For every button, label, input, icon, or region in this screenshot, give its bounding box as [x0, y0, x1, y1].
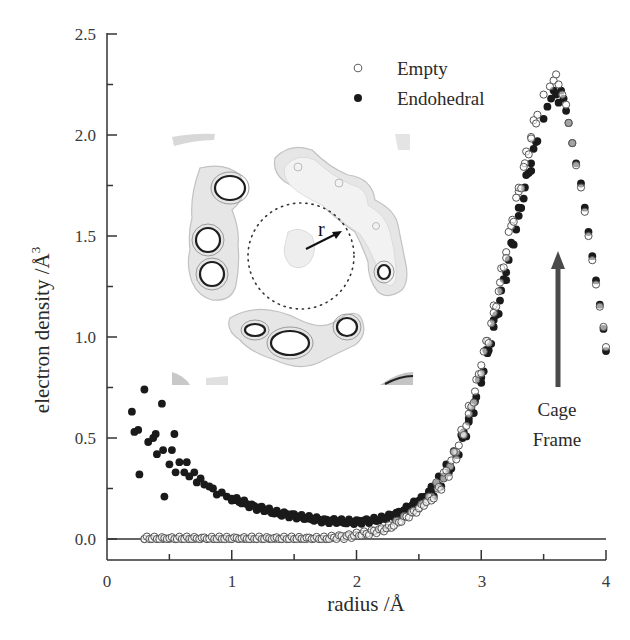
data-point-empty	[445, 473, 452, 480]
y-tick-1-5: 1.5	[75, 227, 96, 246]
x-axis-title: radius /Å	[327, 592, 405, 616]
data-point-endohedral	[190, 468, 198, 476]
data-point-empty	[518, 185, 525, 192]
data-point-empty	[533, 120, 540, 127]
data-point-endohedral	[527, 167, 535, 175]
data-point-endohedral	[134, 426, 142, 434]
data-point-empty	[581, 208, 588, 215]
data-point-empty	[573, 162, 580, 169]
data-point-empty	[513, 194, 520, 201]
data-point-empty	[525, 151, 532, 158]
data-point-endohedral	[517, 204, 525, 212]
x-ticks	[169, 550, 606, 560]
x-tick-4: 4	[602, 572, 611, 591]
data-point-empty	[520, 163, 527, 170]
y-tick-2-0: 2.0	[75, 126, 96, 145]
electron-density-chart: 2.5 2.0 1.5 1.0 0.5 0.0 0 1 2 3 4 radius…	[0, 0, 630, 640]
data-point-empty	[480, 348, 487, 355]
data-point-empty	[455, 442, 462, 449]
arrow-up-icon	[551, 251, 565, 269]
data-point-empty	[596, 303, 603, 310]
x-tick-1: 1	[228, 572, 237, 591]
y-tick-2-5: 2.5	[75, 25, 96, 44]
legend-label-endohedral: Endohedral	[397, 88, 485, 109]
data-point-empty	[470, 399, 477, 406]
arrow-shaft	[556, 266, 561, 387]
data-point-empty	[478, 370, 485, 377]
data-point-endohedral	[166, 460, 174, 468]
y-ticks	[107, 34, 117, 539]
svg-text:electron density /Å3: electron density /Å3	[28, 247, 54, 413]
data-point-endohedral	[141, 386, 149, 394]
data-point-empty	[602, 344, 609, 351]
data-point-empty	[510, 218, 517, 225]
data-point-endohedral	[176, 458, 184, 466]
axes	[107, 33, 606, 560]
data-point-endohedral	[171, 430, 179, 438]
data-point-endohedral	[159, 446, 167, 454]
y-axis-title-superscript: 3	[28, 247, 43, 254]
data-point-empty	[577, 184, 584, 191]
data-point-endohedral	[136, 471, 144, 479]
data-point-endohedral	[158, 400, 166, 408]
data-point-empty	[453, 456, 460, 463]
data-point-empty	[485, 340, 492, 347]
data-point-empty	[465, 410, 472, 417]
data-point-empty	[565, 119, 572, 126]
data-point-endohedral	[510, 241, 518, 249]
data-point-empty	[553, 71, 560, 78]
y-tick-1-0: 1.0	[75, 328, 96, 347]
data-point-empty	[460, 431, 467, 438]
series-endohedral	[128, 87, 610, 528]
data-point-empty	[555, 81, 562, 88]
data-point-endohedral	[183, 458, 191, 466]
data-point-empty	[503, 254, 510, 261]
inset-radius-label: r	[318, 218, 325, 240]
data-point-empty	[471, 388, 478, 395]
data-point-empty	[493, 303, 500, 310]
data-point-empty	[496, 279, 503, 286]
data-point-empty	[463, 422, 470, 429]
data-point-endohedral	[161, 493, 169, 501]
data-point-empty	[528, 135, 535, 142]
data-point-empty	[488, 320, 495, 327]
data-point-endohedral	[152, 430, 160, 438]
data-point-empty	[592, 281, 599, 288]
x-tick-3: 3	[478, 572, 487, 591]
data-point-endohedral	[168, 446, 176, 454]
data-point-endohedral	[544, 103, 552, 111]
y-axis-title: electron density /Å	[30, 253, 54, 414]
data-point-empty	[559, 91, 566, 98]
frame-label: Frame	[533, 429, 582, 450]
cage-frame-annotation: Cage Frame	[533, 251, 582, 450]
data-point-empty	[438, 486, 445, 493]
data-point-empty	[563, 101, 570, 108]
x-tick-2: 2	[353, 572, 362, 591]
data-point-empty	[569, 140, 576, 147]
data-point-empty	[500, 264, 507, 271]
legend-label-empty: Empty	[397, 58, 448, 79]
legend-open-circle-icon	[354, 64, 362, 72]
y-axis-title-group: electron density /Å3	[28, 247, 54, 413]
data-point-endohedral	[128, 408, 136, 416]
data-point-empty	[478, 362, 485, 369]
y-tick-0-0: 0.0	[75, 530, 96, 549]
data-point-empty	[495, 288, 502, 295]
x-tick-labels: 0 1 2 3 4	[103, 572, 611, 591]
legend-filled-circle-icon	[354, 94, 362, 102]
data-point-empty	[430, 495, 437, 502]
data-point-endohedral	[172, 468, 180, 476]
data-point-empty	[585, 232, 592, 239]
contour-inset-map	[172, 134, 413, 385]
x-tick-0: 0	[103, 572, 112, 591]
data-point-empty	[589, 257, 596, 264]
y-tick-labels: 2.5 2.0 1.5 1.0 0.5 0.0	[75, 25, 96, 549]
y-tick-0-5: 0.5	[75, 429, 96, 448]
data-point-empty	[450, 448, 457, 455]
data-point-endohedral	[520, 195, 528, 203]
data-point-empty	[600, 323, 607, 330]
legend: Empty Endohedral	[354, 58, 485, 109]
cage-label: Cage	[537, 399, 576, 420]
data-point-empty	[540, 91, 547, 98]
